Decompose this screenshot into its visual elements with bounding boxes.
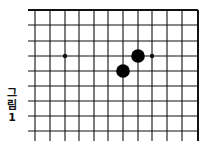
black-stone	[116, 64, 130, 78]
figure-caption: 그 림 1	[5, 88, 19, 124]
board-grid	[28, 10, 198, 141]
stones	[116, 49, 145, 78]
star-point	[150, 54, 154, 58]
star-point	[63, 54, 67, 58]
black-stone	[131, 49, 145, 63]
caption-char-3: 1	[8, 112, 16, 124]
go-board-diagram	[0, 0, 210, 149]
